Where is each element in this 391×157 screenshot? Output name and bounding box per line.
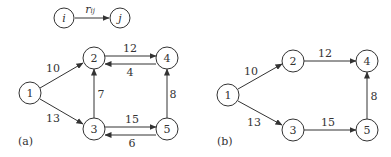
node-a-5: 5	[156, 118, 178, 140]
svg-text:4: 4	[164, 52, 171, 65]
node-b-4: 4	[356, 50, 378, 72]
svg-text:5: 5	[364, 124, 371, 137]
node-b-5: 5	[356, 119, 378, 141]
svg-text:i: i	[62, 12, 66, 25]
weight-a-1-2: 10	[46, 62, 60, 75]
weight-a-5-3: 6	[129, 137, 136, 150]
weight-b-2-4: 12	[318, 47, 332, 60]
legend-node-j: j	[110, 8, 130, 28]
svg-text:1: 1	[27, 87, 34, 100]
weight-a-2-4: 12	[123, 42, 137, 55]
svg-text:5: 5	[164, 123, 171, 136]
weight-a-1-3: 13	[46, 112, 60, 125]
weight-b-1-2: 10	[244, 65, 258, 78]
node-b-2: 2	[282, 50, 304, 72]
panel-b-label: (b)	[217, 135, 233, 148]
weight-b-1-3: 13	[247, 116, 261, 129]
panel-a-label: (a)	[18, 135, 33, 148]
weight-a-4-2: 4	[127, 66, 134, 79]
svg-text:3: 3	[290, 124, 297, 137]
node-a-2: 2	[83, 47, 105, 69]
svg-text:1: 1	[225, 89, 232, 102]
weight-a-3-2: 7	[98, 88, 105, 101]
svg-text:2: 2	[91, 52, 98, 65]
panel-a: 10 13 12 4 7 15 6 8 1 2 3 4 5 (a)	[18, 42, 178, 150]
node-b-1: 1	[217, 84, 239, 106]
weight-b-5-4: 8	[371, 90, 378, 103]
weight-a-5-4: 8	[170, 88, 177, 101]
weight-b-3-5: 15	[321, 116, 335, 129]
weight-a-3-5: 15	[125, 113, 139, 126]
panel-b: 10 13 12 15 8 1 2 3 4 5 (b)	[217, 47, 378, 149]
legend-edge-label: rij	[85, 3, 96, 16]
node-a-3: 3	[83, 118, 105, 140]
svg-text:2: 2	[290, 55, 297, 68]
node-a-4: 4	[156, 47, 178, 69]
legend: rij i j	[54, 3, 130, 29]
legend-node-i: i	[54, 8, 74, 28]
node-a-1: 1	[19, 82, 41, 104]
svg-text:3: 3	[91, 123, 98, 136]
svg-text:4: 4	[364, 55, 371, 68]
network-diagram: rij i j 10 13 12 4 7 15 6 8 1 2 3 4	[0, 0, 391, 157]
node-b-3: 3	[282, 119, 304, 141]
